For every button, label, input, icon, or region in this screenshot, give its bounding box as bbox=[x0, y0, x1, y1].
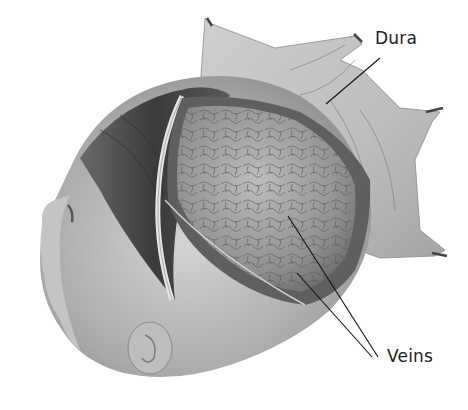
label-veins: Veins bbox=[387, 346, 433, 366]
ear bbox=[128, 322, 172, 374]
diagram-canvas: Dura Veins bbox=[0, 0, 468, 410]
label-dura: Dura bbox=[375, 28, 417, 48]
